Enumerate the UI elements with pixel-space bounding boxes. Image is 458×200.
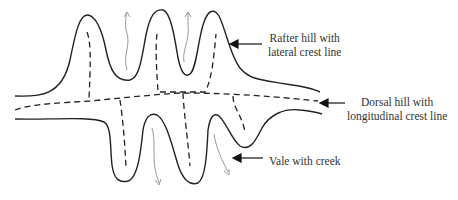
creek-arrow-down-1 [152,128,159,183]
lateral-crest-line-3 [120,100,126,168]
creek-arrow-up-2 [184,13,189,62]
lateral-crest-line-1 [87,32,90,100]
creek-arrow-down-2 [214,134,228,172]
lateral-crest-line-4 [183,93,190,166]
creek-arrow-up-1 [126,13,128,70]
dorsal-leader-arrowhead [320,99,328,107]
lateral-crest-line-5 [233,96,245,132]
dorsal-hill-label: Dorsal hill with longitudinal crest line [347,95,447,123]
rafter-hill-label-line2: lateral crest line [268,45,341,59]
vale-label-line1: Vale with creek [269,154,341,168]
rafter-leader-arrowhead [230,40,238,48]
lower-hill-outline [15,110,322,184]
longitudinal-crest-line [15,93,318,110]
dorsal-hill-label-line1: Dorsal hill with [347,95,447,109]
rafter-hill-label-line1: Rafter hill with [268,31,341,45]
vale-label: Vale with creek [269,154,341,168]
vale-leader-arrowhead [233,154,241,162]
dorsal-hill-label-line2: longitudinal crest line [347,109,447,123]
rafter-hill-label: Rafter hill with lateral crest line [268,31,341,59]
